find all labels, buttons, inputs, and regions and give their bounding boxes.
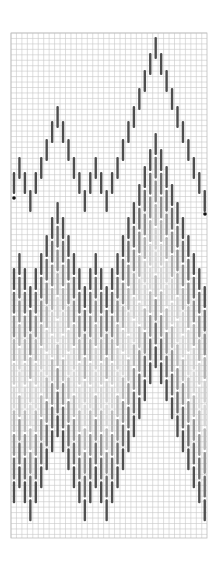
fill-stitch (182, 359, 184, 381)
fill-stitch (40, 300, 42, 322)
fill-stitch (78, 315, 80, 337)
fill-stitch (133, 321, 135, 343)
fill-stitch (29, 428, 31, 450)
fill-stitch (89, 292, 91, 314)
fill-stitch (40, 253, 42, 275)
fill-stitch (127, 359, 129, 381)
fill-stitch (138, 231, 140, 253)
fill-stitch (13, 315, 15, 337)
fill-stitch (46, 330, 48, 352)
fill-stitch (67, 235, 69, 257)
fill-stitch (84, 405, 86, 427)
fill-stitch (35, 339, 37, 361)
fill-stitch (89, 315, 91, 337)
outline-stitch (56, 106, 58, 128)
fill-stitch (13, 363, 15, 385)
fill-stitch (187, 330, 189, 352)
fill-stitch (176, 368, 178, 390)
fill-stitch (40, 324, 42, 346)
outline-stitch (176, 106, 178, 128)
fill-stitch (89, 410, 91, 432)
fill-stitch (176, 249, 178, 271)
fill-stitch (73, 372, 75, 394)
fill-stitch (155, 252, 157, 274)
fill-stitch (89, 339, 91, 361)
outline-stitch (24, 172, 26, 194)
fill-stitch (105, 357, 107, 379)
outline-stitch (29, 190, 31, 212)
outline-stitch (84, 190, 86, 212)
fill-stitch (84, 476, 86, 498)
outline-stitch (35, 172, 37, 194)
fill-stitch (24, 363, 26, 385)
fill-stitch (18, 348, 20, 370)
fill-stitch (35, 410, 37, 432)
fill-stitch (127, 383, 129, 405)
fill-stitch (127, 336, 129, 358)
fill-stitch (84, 286, 86, 308)
fill-stitch (149, 173, 151, 195)
fill-stitch (122, 259, 124, 281)
fill-stitch (133, 368, 135, 390)
fill-stitch (29, 286, 31, 308)
fill-stitch (24, 410, 26, 432)
fill-stitch (95, 372, 97, 394)
fill-stitch (95, 253, 97, 275)
outline-stitch (138, 88, 140, 110)
fill-stitch (56, 368, 58, 390)
fill-stitch (35, 315, 37, 337)
outline-stitch (67, 139, 69, 161)
fill-stitch (35, 481, 37, 503)
fill-stitch (84, 381, 86, 403)
fill-stitch (160, 362, 162, 384)
fill-stitch (111, 363, 113, 385)
fill-stitch (89, 481, 91, 503)
fill-stitch (29, 499, 31, 521)
fill-stitch (95, 419, 97, 441)
fill-stitch (182, 241, 184, 263)
fill-stitch (155, 228, 157, 250)
fill-stitch (160, 315, 162, 337)
fill-stitch (182, 336, 184, 358)
fill-stitch (176, 321, 178, 343)
fill-stitch (204, 405, 206, 427)
fill-stitch (133, 297, 135, 319)
fill-stitch (193, 253, 195, 275)
fill-stitch (193, 300, 195, 322)
fill-stitch (105, 333, 107, 355)
fill-stitch (182, 288, 184, 310)
fill-stitch (73, 277, 75, 299)
fill-stitch (13, 458, 15, 480)
fill-stitch (111, 481, 113, 503)
fill-stitch (127, 241, 129, 263)
fill-stitch (171, 326, 173, 348)
fill-stitch (100, 315, 102, 337)
fill-stitch (144, 356, 146, 378)
fill-stitch (78, 339, 80, 361)
fill-stitch (116, 324, 118, 346)
fill-stitch (204, 476, 206, 498)
fill-stitch (100, 434, 102, 456)
fill-stitch (84, 310, 86, 332)
fill-stitch (46, 306, 48, 328)
fill-stitch (198, 481, 200, 503)
fill-stitch (133, 226, 135, 248)
fill-stitch (95, 324, 97, 346)
fill-stitch (165, 213, 167, 235)
fill-stitch (193, 419, 195, 441)
fill-stitch (56, 226, 58, 248)
fill-stitch (73, 324, 75, 346)
fill-stitch (165, 285, 167, 307)
fill-stitch (182, 312, 184, 334)
fill-stitch (149, 268, 151, 290)
fill-stitch (56, 273, 58, 295)
fill-stitch (18, 324, 20, 346)
fill-stitch (187, 354, 189, 376)
outline-stitch (18, 157, 20, 179)
fill-stitch (138, 279, 140, 301)
outline-stitch (78, 172, 80, 194)
fill-stitch (138, 374, 140, 396)
fill-stitch (138, 255, 140, 277)
fill-stitch (122, 354, 124, 376)
fill-stitch (29, 357, 31, 379)
